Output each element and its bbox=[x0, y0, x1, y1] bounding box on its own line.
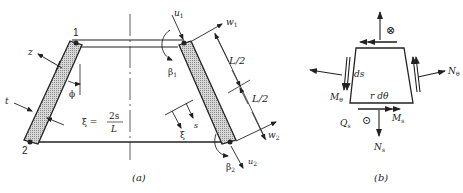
t-label: t bbox=[5, 96, 9, 106]
node-1-dot bbox=[74, 41, 79, 46]
beta1-rotation-arrow bbox=[162, 30, 172, 60]
node-top-right-dot bbox=[182, 41, 187, 46]
length-dim-arrow-mid-down bbox=[240, 88, 248, 104]
out-of-page-symbol: ⊙ bbox=[362, 114, 371, 127]
xi-label: ξ bbox=[180, 130, 185, 140]
svg-text:ξ =: ξ = bbox=[82, 117, 97, 127]
figure-a-caption: (a) bbox=[132, 172, 146, 183]
beta2-label: β2 bbox=[226, 162, 235, 173]
w2-label: w2 bbox=[268, 130, 280, 141]
right-shell-wall bbox=[179, 41, 236, 144]
figure-a: 1 2 z ϕ t ξ = 2s L ξ s u1 w1 bbox=[5, 8, 280, 183]
node-1-label: 1 bbox=[73, 27, 79, 38]
half-length-bottom-label: L/2 bbox=[251, 93, 268, 104]
figure-b-caption: (b) bbox=[374, 172, 388, 183]
diagram-canvas: 1 2 z ϕ t ξ = 2s L ξ s u1 w1 bbox=[0, 0, 463, 193]
length-dim-arrow-top bbox=[215, 34, 229, 62]
xi-equation: ξ = 2s L bbox=[82, 111, 123, 134]
thickness-arrow-inner bbox=[47, 118, 64, 125]
length-dimension-midtick bbox=[228, 80, 250, 93]
svg-text:L: L bbox=[110, 124, 117, 134]
svg-text:2s: 2s bbox=[109, 111, 120, 121]
left-shear-arrow-2 bbox=[347, 57, 350, 90]
phi-arc bbox=[68, 81, 80, 84]
thickness-arrow-outer bbox=[14, 103, 32, 111]
length-dim-arrow-bottom bbox=[252, 112, 265, 139]
node-2-label: 2 bbox=[22, 145, 28, 156]
node-bottom-right-dot bbox=[228, 140, 233, 145]
xi-arrow bbox=[172, 111, 181, 128]
figure-b: ⊗ ds Mθ Nθ r dθ Ms Ns ⊙ Qs (b) bbox=[310, 12, 460, 183]
phi-label: ϕ bbox=[69, 89, 75, 99]
N-theta-label: Nθ bbox=[447, 66, 460, 77]
N-s-label: Ns bbox=[373, 142, 385, 153]
u2-arrow bbox=[231, 146, 243, 168]
xi-s-reference bbox=[165, 100, 193, 115]
s-label: s bbox=[194, 121, 198, 130]
left-normal-arrow bbox=[310, 70, 342, 75]
z-label: z bbox=[27, 47, 33, 57]
beta1-label: β1 bbox=[168, 67, 177, 78]
w1-label: w1 bbox=[226, 17, 238, 28]
M-theta-label: Mθ bbox=[329, 92, 343, 103]
node-2-dot bbox=[28, 140, 33, 145]
Q-s-label: Qs bbox=[340, 118, 350, 129]
u2-label: u2 bbox=[248, 157, 257, 167]
s-arrow bbox=[186, 103, 193, 118]
M-s-label: Ms bbox=[391, 113, 404, 124]
half-length-top-label: L/2 bbox=[228, 55, 245, 66]
top-edge bbox=[72, 40, 184, 47]
r-dtheta-label: r dθ bbox=[370, 91, 389, 101]
length-dim-arrow-mid-up bbox=[232, 70, 240, 86]
right-normal-arrow bbox=[418, 71, 445, 77]
left-shear-arrow bbox=[344, 57, 347, 90]
u1-label: u1 bbox=[174, 8, 184, 19]
into-page-symbol: ⊗ bbox=[386, 24, 395, 37]
ds-label: ds bbox=[354, 69, 365, 79]
